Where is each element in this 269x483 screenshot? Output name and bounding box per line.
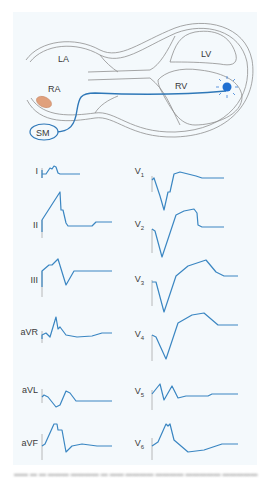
ecg-trace (42, 259, 112, 287)
label-rv: RV (175, 81, 187, 91)
ecg-lead-v4: V4 (135, 313, 238, 361)
ecg-trace (152, 260, 238, 312)
atrial-septum-low (95, 96, 118, 113)
lead-label: aVF (21, 438, 38, 448)
lead-label: V5 (135, 386, 145, 398)
sinus-node (35, 94, 54, 110)
ecg-trace (152, 424, 238, 452)
ventricular-septum (88, 36, 175, 72)
label-lv: LV (201, 49, 211, 59)
ecg-trace (42, 424, 112, 452)
ecg-trace (152, 172, 224, 210)
lead-label: I (35, 166, 38, 176)
lead-label: II (33, 220, 38, 230)
ecg-trace (42, 317, 112, 339)
ecg-lead-i: I (35, 166, 80, 178)
ecg-lead-v3: V3 (135, 260, 238, 312)
ecg-lead-v1: V1 (135, 166, 224, 210)
heart-schematic (26, 23, 253, 137)
lead-label: V6 (135, 438, 145, 450)
heart-outer-wall (26, 23, 253, 137)
lead-label: V1 (135, 166, 145, 178)
caption-blurred: ▬▬ ▬ ▬ ▬▬▬ ▬▬▬▬ ▬ ▬▬ ▬▬▬▬ ▬▬▬▬ ▬▬▬▬▬ ▬▬▬… (14, 470, 258, 477)
label-ra: RA (48, 84, 61, 94)
ecg-lead-ii: II (33, 192, 112, 238)
ecg-lead-v5: V5 (135, 384, 238, 410)
ecg-lead-v2: V2 (135, 209, 224, 257)
rv-chamber (158, 69, 242, 125)
ecg-left-column: IIIIIIaVRaVLaVF (20, 166, 112, 460)
ecg-trace (152, 384, 238, 400)
label-sm: SM (36, 128, 50, 138)
lead-label: V3 (135, 274, 145, 286)
figure-svg: LA RA LV RV SM IIIIIIaVRaVLaVF V1V2V3V4V… (0, 0, 269, 483)
ecg-lead-avl: aVL (22, 385, 112, 407)
electrode-tip-icon (216, 76, 238, 98)
lead-label: aVL (22, 385, 38, 395)
ecg-lead-iii: III (30, 259, 112, 297)
lead-label: III (30, 275, 38, 285)
ecg-lead-v6: V6 (135, 424, 238, 460)
ecg-trace (152, 313, 238, 359)
ecg-trace (42, 166, 80, 178)
lead-label: aVR (20, 327, 38, 337)
lead-label: V4 (135, 329, 145, 341)
ecg-lead-avr: aVR (20, 317, 112, 343)
lead-label: V2 (135, 219, 145, 231)
label-la: LA (58, 54, 69, 64)
ecg-lead-avf: aVF (21, 424, 112, 460)
ecg-trace (42, 192, 112, 232)
ecg-right-column: V1V2V3V4V5V6 (135, 166, 238, 460)
pacemaker-lead-wire (55, 91, 226, 132)
ecg-trace (42, 391, 112, 407)
heart-outer-wall-inner (30, 28, 248, 132)
ecg-trace (152, 209, 224, 257)
